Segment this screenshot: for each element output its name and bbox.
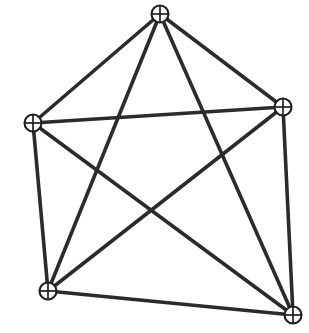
graph-node-top[interactable] [152, 6, 169, 23]
graph-node-left[interactable] [25, 115, 42, 132]
graph-node-right[interactable] [275, 99, 292, 116]
graph-canvas [0, 0, 309, 333]
graph-node-bottom-right[interactable] [285, 307, 302, 324]
graph-figure [0, 0, 309, 333]
graph-node-bottom-left[interactable] [40, 283, 57, 300]
